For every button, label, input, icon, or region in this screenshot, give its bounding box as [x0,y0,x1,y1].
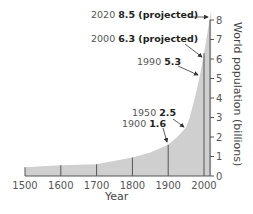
annotation-arrow-1990 [178,66,198,75]
x-tick-label: 1500 [12,180,37,191]
y-tick-label: 6 [216,54,222,65]
y-tick-label: 3 [216,112,222,123]
y-tick-label: 1 [216,151,222,162]
annotation-value: 8.5 (projected) [118,9,198,20]
y-tick-label: 8 [216,15,222,26]
x-tick-label: 2000 [191,180,216,191]
annotation-year: 1900 [122,118,146,129]
annotation-arrow-1900 [163,128,167,142]
annotation-1990: 1990 5.3 [137,57,181,67]
y-tick-label: 7 [216,34,222,45]
y-tick-label: 4 [216,93,222,104]
annotation-year: 2020 [91,9,115,20]
annotation-year: 1990 [137,56,161,67]
annotation-2000: 2000 6.3 (projected) [91,34,198,44]
annotation-year: 1950 [132,107,156,118]
annotation-1900: 1900 1.6 [122,119,166,129]
annotation-1950: 1950 2.5 [132,108,176,118]
x-axis-title: Year [105,191,128,202]
annotation-value: 2.5 [159,107,176,118]
annotation-arrow-1950 [173,119,184,127]
y-tick-label: 5 [216,73,222,84]
y-axis-title: World population (billions) [232,22,243,166]
annotation-2020: 2020 8.5 (projected) [91,10,198,20]
annotation-value: 6.3 (projected) [118,33,198,44]
x-tick-label: 1600 [48,180,73,191]
annotation-value: 5.3 [164,56,181,67]
x-tick-label: 1900 [155,180,180,191]
annotation-value: 1.6 [149,118,166,129]
annotation-year: 2000 [91,33,115,44]
annotation-arrow-2000 [185,44,202,57]
y-tick-label: 2 [216,132,222,143]
y-tick-label: 0 [216,171,222,182]
